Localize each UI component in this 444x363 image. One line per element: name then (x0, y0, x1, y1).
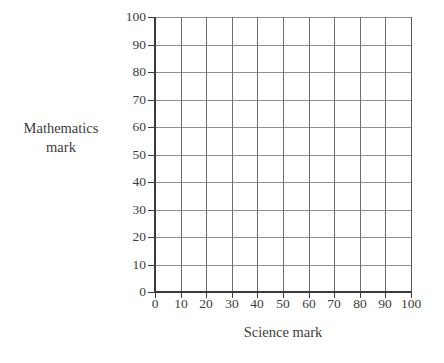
y-axis-tick-label: 90 (106, 38, 146, 52)
y-axis-tick-label: 40 (106, 175, 146, 189)
y-axis-tick-label: 60 (106, 120, 146, 134)
x-axis-title: Science mark (155, 323, 411, 341)
plot-area (155, 17, 411, 292)
y-axis-tick-label: 70 (106, 93, 146, 107)
y-axis-tick-label: 100 (106, 10, 146, 24)
gridline-vertical (181, 17, 182, 292)
gridline-vertical (385, 17, 386, 292)
y-axis-tick (148, 210, 155, 211)
y-axis-title-line-2: mark (8, 138, 114, 157)
gridline-vertical (232, 17, 233, 292)
gridline-vertical (334, 17, 335, 292)
y-axis-tick (148, 72, 155, 73)
gridline-vertical (283, 17, 284, 292)
y-axis-tick (148, 17, 155, 18)
y-axis-title-line-1: Mathematics (8, 119, 114, 138)
y-axis-tick (148, 155, 155, 156)
y-axis-tick (148, 182, 155, 183)
y-axis-tick (148, 100, 155, 101)
x-axis-tick-label: 100 (391, 297, 431, 311)
y-axis-tick (148, 237, 155, 238)
y-axis-tick-label: 30 (106, 203, 146, 217)
gridline-vertical (309, 17, 310, 292)
y-axis-tick-label: 80 (106, 65, 146, 79)
y-axis-tick-label: 50 (106, 148, 146, 162)
gridline-vertical (257, 17, 258, 292)
y-axis-tick-label: 10 (106, 258, 146, 272)
y-axis-tick (148, 292, 155, 293)
scatter-graph-figure: Mathematics mark Science mark 1009080706… (0, 0, 444, 363)
y-axis-tick (148, 127, 155, 128)
y-axis-tick-label: 20 (106, 230, 146, 244)
y-axis-tick (148, 265, 155, 266)
gridline-vertical (360, 17, 361, 292)
gridline-vertical (206, 17, 207, 292)
gridline-vertical (411, 17, 412, 292)
y-axis-tick (148, 45, 155, 46)
y-axis-title: Mathematics mark (8, 119, 114, 157)
